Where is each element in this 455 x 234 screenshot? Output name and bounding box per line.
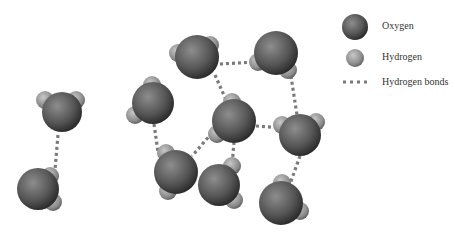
water-molecule [169,35,219,79]
water-hydrogen-bond-diagram [0,0,455,234]
water-molecules [17,31,325,225]
legend-hydrogen-icon [346,49,364,67]
water-molecule [273,113,325,156]
water-molecule [17,167,62,211]
hydrogen-bond-line [215,75,226,100]
oxygen-atom [175,35,219,79]
water-molecule [259,174,309,225]
oxygen-atom [279,114,321,156]
water-molecule [36,91,85,132]
legend-oxygen-label: Oxygen [382,20,414,31]
oxygen-atom [17,168,59,210]
legend-hydrogen-bonds-label: Hydrogen bonds [382,76,448,87]
oxygen-atom [212,99,256,143]
water-molecule [126,76,174,124]
legend-oxygen-icon [342,14,368,40]
legend-hydrogen-label: Hydrogen [382,51,422,62]
oxygen-atom [132,82,174,124]
water-molecule [208,93,256,143]
oxygen-atom [42,92,82,132]
water-molecule [198,157,243,209]
oxygen-atom [259,181,303,225]
oxygen-atom [254,31,298,75]
oxygen-atom [154,150,198,194]
water-molecule [249,31,298,79]
hydrogen-bond-line [290,156,300,184]
legend-symbols [342,14,368,82]
hydrogen-bond-line [55,135,58,170]
oxygen-atom [198,164,240,206]
hydrogen-bond-line [154,124,158,152]
water-molecule [154,144,198,200]
